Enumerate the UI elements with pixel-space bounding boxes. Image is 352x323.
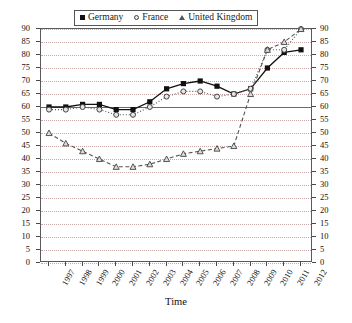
series-layer bbox=[41, 29, 313, 263]
x-tick-mark-2007 bbox=[216, 262, 217, 266]
y-tick-mark-left-25 bbox=[36, 197, 40, 198]
y-tick-label-left-75: 75 bbox=[4, 63, 30, 72]
data-point-france-2005 bbox=[181, 89, 186, 94]
data-point-france-2000 bbox=[97, 107, 102, 112]
x-tick-label-2007: 2007 bbox=[229, 268, 245, 287]
y-tick-mark-right-80 bbox=[312, 54, 316, 55]
data-point-united-kingdom-2008 bbox=[231, 143, 237, 149]
x-tick-label-2011: 2011 bbox=[296, 268, 312, 287]
legend-label-france: France bbox=[142, 12, 168, 23]
x-tick-label-2000: 2000 bbox=[111, 268, 127, 287]
x-tick-mark-2006 bbox=[199, 262, 200, 266]
x-tick-label-1999: 1999 bbox=[94, 268, 110, 287]
data-point-france-2001 bbox=[114, 112, 119, 117]
y-tick-mark-left-10 bbox=[36, 236, 40, 237]
y-tick-label-left-85: 85 bbox=[4, 37, 30, 46]
y-tick-mark-right-10 bbox=[312, 236, 316, 237]
y-tick-mark-left-90 bbox=[36, 28, 40, 29]
y-tick-mark-right-55 bbox=[312, 119, 316, 120]
x-tick-mark-2002 bbox=[132, 262, 133, 266]
y-tick-mark-right-85 bbox=[312, 41, 316, 42]
y-tick-label-left-50: 50 bbox=[4, 128, 30, 137]
x-tick-label-2008: 2008 bbox=[245, 268, 261, 287]
legend-label-germany: Germany bbox=[88, 12, 123, 23]
x-tick-mark-2000 bbox=[98, 262, 99, 266]
data-point-germany-2004 bbox=[164, 86, 169, 91]
y-tick-label-left-20: 20 bbox=[4, 206, 30, 215]
y-tick-label-right-70: 70 bbox=[320, 76, 346, 85]
y-tick-mark-right-15 bbox=[312, 223, 316, 224]
y-tick-label-left-80: 80 bbox=[4, 50, 30, 59]
y-tick-mark-right-30 bbox=[312, 184, 316, 185]
data-point-united-kingdom-2000 bbox=[96, 156, 102, 162]
y-tick-mark-right-5 bbox=[312, 249, 316, 250]
legend-label-united-kingdom: United Kingdom bbox=[188, 12, 252, 23]
y-tick-mark-right-75 bbox=[312, 67, 316, 68]
series-line-united-kingdom bbox=[49, 29, 301, 167]
x-tick-label-2006: 2006 bbox=[212, 268, 228, 287]
data-point-france-2004 bbox=[164, 94, 169, 99]
open-triangle-icon bbox=[179, 15, 185, 20]
y-tick-label-left-15: 15 bbox=[4, 219, 30, 228]
data-point-france-2007 bbox=[215, 94, 220, 99]
line-chart: Germany France United Kingdom 9085807570… bbox=[0, 0, 352, 323]
y-tick-label-left-5: 5 bbox=[4, 245, 30, 254]
y-tick-mark-left-20 bbox=[36, 210, 40, 211]
y-tick-mark-left-35 bbox=[36, 171, 40, 172]
y-tick-mark-right-45 bbox=[312, 145, 316, 146]
y-tick-mark-right-20 bbox=[312, 210, 316, 211]
data-point-united-kingdom-2004 bbox=[164, 156, 170, 162]
y-tick-label-right-30: 30 bbox=[320, 180, 346, 189]
chart-legend: Germany France United Kingdom bbox=[74, 10, 258, 26]
y-tick-label-left-10: 10 bbox=[4, 232, 30, 241]
data-point-germany-2007 bbox=[214, 84, 219, 89]
data-point-germany-2010 bbox=[265, 65, 270, 70]
data-point-france-2008 bbox=[231, 92, 236, 97]
data-point-france-1998 bbox=[63, 107, 68, 112]
x-tick-label-1997: 1997 bbox=[61, 268, 77, 287]
y-tick-label-right-5: 5 bbox=[320, 245, 346, 254]
filled-square-icon bbox=[80, 15, 85, 20]
y-tick-mark-left-60 bbox=[36, 106, 40, 107]
y-tick-label-left-35: 35 bbox=[4, 167, 30, 176]
data-point-france-2011 bbox=[282, 47, 287, 52]
x-tick-label-1998: 1998 bbox=[77, 268, 93, 287]
x-tick-label-2009: 2009 bbox=[262, 268, 278, 287]
y-tick-label-right-15: 15 bbox=[320, 219, 346, 228]
y-tick-label-right-45: 45 bbox=[320, 141, 346, 150]
data-point-germany-2002 bbox=[130, 107, 135, 112]
y-tick-label-right-55: 55 bbox=[320, 115, 346, 124]
y-tick-label-right-50: 50 bbox=[320, 128, 346, 137]
data-point-germany-2000 bbox=[97, 102, 102, 107]
y-tick-label-right-35: 35 bbox=[320, 167, 346, 176]
x-tick-mark-2008 bbox=[233, 262, 234, 266]
plot-area bbox=[40, 28, 312, 262]
x-axis-title: Time bbox=[0, 296, 352, 307]
x-tick-mark-2012 bbox=[300, 262, 301, 266]
data-point-france-2002 bbox=[131, 112, 136, 117]
y-tick-label-left-55: 55 bbox=[4, 115, 30, 124]
y-tick-mark-right-65 bbox=[312, 93, 316, 94]
x-tick-mark-1997 bbox=[48, 262, 49, 266]
y-tick-label-left-45: 45 bbox=[4, 141, 30, 150]
data-point-germany-2005 bbox=[181, 81, 186, 86]
y-tick-label-right-85: 85 bbox=[320, 37, 346, 46]
y-tick-mark-left-15 bbox=[36, 223, 40, 224]
data-point-germany-2003 bbox=[147, 99, 152, 104]
y-tick-label-right-40: 40 bbox=[320, 154, 346, 163]
x-tick-mark-2005 bbox=[182, 262, 183, 266]
data-point-france-1997 bbox=[47, 107, 52, 112]
y-tick-label-left-0: 0 bbox=[4, 258, 30, 267]
y-tick-label-left-60: 60 bbox=[4, 102, 30, 111]
y-tick-label-right-75: 75 bbox=[320, 63, 346, 72]
y-tick-mark-left-80 bbox=[36, 54, 40, 55]
y-tick-mark-right-40 bbox=[312, 158, 316, 159]
x-tick-mark-2004 bbox=[166, 262, 167, 266]
data-point-france-1999 bbox=[80, 105, 85, 110]
x-tick-mark-1998 bbox=[65, 262, 66, 266]
y-tick-mark-right-35 bbox=[312, 171, 316, 172]
data-point-france-2003 bbox=[147, 105, 152, 110]
y-tick-label-left-30: 30 bbox=[4, 180, 30, 189]
y-tick-label-left-90: 90 bbox=[4, 24, 30, 33]
y-tick-label-left-25: 25 bbox=[4, 193, 30, 202]
